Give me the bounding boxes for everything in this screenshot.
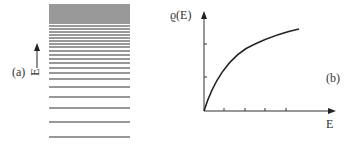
panel-a-label: (a) [12,66,25,78]
x-axis-arrow-icon [328,108,336,114]
panel-b-y-label: ϱ(E) [170,9,191,21]
panel-b-x-label: E [326,118,333,130]
energy-level-lines [49,5,130,137]
panel-a-energy-label: E [29,68,41,75]
dos-curve [204,29,299,111]
panel-b-label: (b) [326,72,340,84]
dos-axes [204,17,330,111]
energy-arrow-icon [34,43,40,68]
y-axis-arrow-icon [201,11,207,19]
